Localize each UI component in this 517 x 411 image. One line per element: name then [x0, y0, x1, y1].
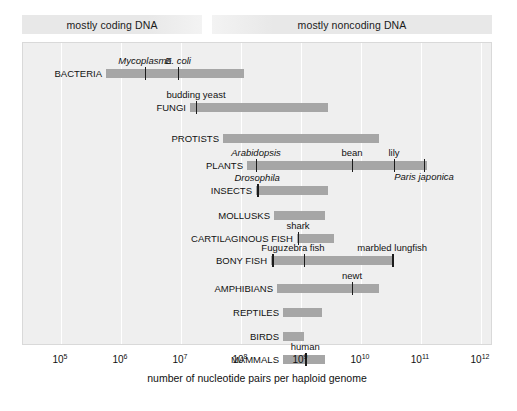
species-label: marbled lungfish: [357, 243, 427, 253]
species-label: Arabidopsis: [231, 148, 281, 158]
group-label: REPTILES: [161, 308, 279, 317]
genome-size-figure: mostly coding DNA mostly noncoding DNA B…: [0, 0, 517, 411]
chart-row: REPTILES: [23, 308, 491, 317]
range-bar: [106, 69, 244, 78]
species-label: Mycoplasma: [118, 56, 171, 66]
species-marker: [352, 282, 353, 295]
chart-row: BACTERIAMycoplasmaE. coli: [23, 69, 491, 78]
group-label: PLANTS: [125, 161, 243, 170]
species-marker: [178, 67, 179, 80]
group-label: AMPHIBIANS: [155, 284, 273, 293]
group-label: BONY FISH: [149, 256, 267, 265]
species-marker: [392, 254, 393, 267]
species-label: lily: [388, 148, 399, 158]
species-marker: [145, 67, 146, 80]
species-marker: [304, 254, 305, 267]
x-axis-tick: 109: [292, 353, 307, 365]
chart-row: FUNGIbudding yeast: [23, 103, 491, 112]
x-axis-tick: 107: [172, 353, 187, 365]
group-label: BIRDS: [161, 332, 279, 341]
x-axis-tick: 106: [112, 353, 127, 365]
species-label: zebra fish: [283, 243, 324, 253]
group-label: FUNGI: [68, 103, 186, 112]
group-label: PROTISTS: [101, 134, 219, 143]
banner-label: mostly noncoding DNA: [298, 19, 407, 31]
group-label: MOLLUSKS: [152, 211, 270, 220]
range-bar: [283, 308, 322, 317]
chart-row: PLANTSArabidopsisbeanlilyParis japonica: [23, 161, 491, 170]
x-axis-label: number of nucleotide pairs per haploid g…: [22, 372, 492, 384]
species-marker: [256, 159, 257, 172]
chart-row: PROTISTS: [23, 134, 491, 143]
range-bar: [190, 103, 328, 112]
species-marker: [257, 184, 258, 197]
range-bar: [274, 211, 325, 220]
range-bar: [256, 186, 328, 195]
plot-area: BACTERIAMycoplasmaE. coliFUNGIbudding ye…: [22, 42, 492, 345]
species-marker: [352, 159, 353, 172]
species-label: newt: [342, 271, 362, 281]
x-axis-tick: 1012: [471, 353, 490, 365]
species-label: E. coli: [165, 56, 191, 66]
group-label: INSECTS: [134, 186, 252, 195]
banner-label: mostly coding DNA: [67, 19, 158, 31]
range-bar: [277, 284, 379, 293]
species-label: shark: [286, 221, 309, 231]
chart-row: INSECTSDrosophila: [23, 186, 491, 195]
species-label: Drosophila: [234, 173, 279, 183]
x-axis-tick: 105: [52, 353, 67, 365]
species-label: budding yeast: [166, 90, 225, 100]
group-label: BACTERIA: [0, 69, 102, 78]
x-axis-tick: 1011: [411, 353, 429, 365]
x-axis-tick: 108: [232, 353, 247, 365]
species-label: Paris japonica: [394, 172, 454, 182]
chart-row: AMPHIBIANSnewt: [23, 284, 491, 293]
banner-mostly-noncoding-dna: mostly noncoding DNA: [212, 15, 492, 34]
range-bar: [247, 161, 427, 170]
x-axis: 105106107108109101010111012: [22, 345, 492, 375]
range-bar: [223, 134, 379, 143]
species-label: Fugu: [261, 243, 283, 253]
chart-row: BONY FISHFuguzebra fishmarbled lungfish: [23, 256, 491, 265]
species-marker: [196, 101, 197, 114]
range-bar: [283, 332, 304, 341]
x-axis-tick: 1010: [351, 353, 370, 365]
chart-row: BIRDS: [23, 332, 491, 341]
chart-row: MOLLUSKS: [23, 211, 491, 220]
banner-mostly-coding-dna: mostly coding DNA: [22, 15, 202, 34]
species-marker: [272, 254, 273, 267]
range-bar: [271, 256, 394, 265]
species-label: bean: [341, 148, 362, 158]
